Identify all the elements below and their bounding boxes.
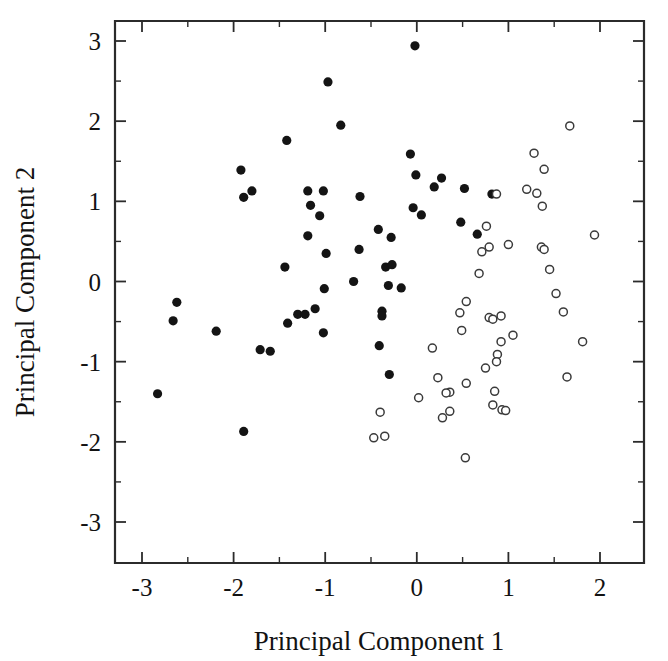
data-point-filled	[336, 121, 345, 130]
data-point-filled	[169, 316, 178, 325]
data-point-filled	[411, 170, 420, 179]
y-tick-label: 2	[89, 108, 102, 135]
plot-canvas: -3-2-1012 -3-2-10123 Principal Component…	[0, 0, 668, 661]
data-point-filled	[300, 310, 309, 319]
y-tick-label: -1	[80, 349, 101, 376]
data-point-filled	[456, 218, 465, 227]
data-point-open	[376, 408, 384, 416]
data-point-filled	[406, 149, 415, 158]
data-point-filled	[315, 211, 324, 220]
data-point-filled	[239, 427, 248, 436]
data-point-open	[540, 245, 548, 253]
data-point-filled	[387, 233, 396, 242]
data-point-filled	[384, 281, 393, 290]
data-point-open	[552, 290, 560, 298]
data-point-filled	[323, 77, 332, 86]
data-point-open	[462, 379, 470, 387]
x-tick-label: -1	[315, 574, 336, 601]
x-tick-label: -3	[132, 574, 153, 601]
data-point-filled	[266, 347, 275, 356]
y-tick-label: 1	[89, 188, 102, 215]
data-point-open	[591, 231, 599, 239]
data-point-open	[456, 309, 464, 317]
data-point-open	[540, 165, 548, 173]
data-point-open	[415, 394, 423, 402]
data-point-open	[370, 434, 378, 442]
data-point-filled	[236, 165, 245, 174]
data-point-open	[492, 190, 500, 198]
data-point-open	[461, 454, 469, 462]
data-point-filled	[460, 184, 469, 193]
data-point-filled	[256, 345, 265, 354]
data-point-open	[492, 358, 500, 366]
data-point-open	[546, 265, 554, 273]
data-point-open	[502, 407, 510, 415]
data-point-filled	[247, 186, 256, 195]
data-point-open	[482, 222, 490, 230]
data-point-filled	[303, 231, 312, 240]
axes-frame	[115, 21, 644, 563]
y-axis-title: Principal Component 2	[10, 167, 40, 417]
data-point-filled	[322, 249, 331, 258]
x-tick-label: -2	[223, 574, 244, 601]
data-point-open	[446, 407, 454, 415]
data-point-open	[442, 389, 450, 397]
x-tick-label: 0	[411, 574, 424, 601]
data-point-filled	[280, 262, 289, 271]
series-group-a-filled	[153, 41, 497, 436]
data-point-filled	[283, 319, 292, 328]
data-point-open	[381, 432, 389, 440]
data-point-open	[428, 344, 436, 352]
data-point-open	[438, 414, 446, 422]
y-tick-label: -2	[80, 429, 101, 456]
data-point-filled	[374, 225, 383, 234]
scatter-plot-figure: -3-2-1012 -3-2-10123 Principal Component…	[0, 0, 668, 661]
data-point-open	[538, 202, 546, 210]
data-point-filled	[239, 193, 248, 202]
y-tick-label: 3	[89, 28, 102, 55]
data-point-filled	[212, 327, 221, 336]
data-point-open	[559, 308, 567, 316]
axis-ticks	[115, 21, 644, 563]
x-tick-labels: -3-2-1012	[132, 574, 607, 601]
data-point-filled	[306, 201, 315, 210]
data-point-filled	[409, 203, 418, 212]
y-tick-label: 0	[89, 269, 102, 296]
data-point-open	[458, 326, 466, 334]
data-point-filled	[417, 210, 426, 219]
data-point-filled	[430, 182, 439, 191]
data-point-filled	[355, 192, 364, 201]
data-point-open	[497, 338, 505, 346]
data-point-filled	[410, 41, 419, 50]
data-point-open	[566, 122, 574, 130]
data-point-filled	[153, 389, 162, 398]
data-point-filled	[385, 370, 394, 379]
data-point-open	[491, 387, 499, 395]
data-point-open	[475, 269, 483, 277]
x-tick-label: 2	[594, 574, 607, 601]
data-point-filled	[437, 173, 446, 182]
data-point-filled	[282, 136, 291, 145]
data-point-open	[489, 315, 497, 323]
data-point-filled	[387, 260, 396, 269]
data-point-filled	[397, 283, 406, 292]
series-group-b-open	[370, 122, 599, 462]
data-point-filled	[303, 186, 312, 195]
x-tick-label: 1	[502, 574, 515, 601]
data-point-open	[509, 331, 517, 339]
data-point-open	[497, 312, 505, 320]
data-point-open	[563, 373, 571, 381]
data-point-open	[489, 401, 497, 409]
data-point-filled	[375, 341, 384, 350]
x-axis-title: Principal Component 1	[254, 626, 504, 656]
data-point-open	[504, 241, 512, 249]
data-point-filled	[311, 304, 320, 313]
data-point-open	[462, 298, 470, 306]
data-point-open	[523, 185, 531, 193]
data-point-open	[485, 243, 493, 251]
data-point-open	[530, 149, 538, 157]
data-point-filled	[473, 230, 482, 239]
data-point-filled	[320, 284, 329, 293]
data-point-open	[579, 338, 587, 346]
data-point-filled	[319, 328, 328, 337]
